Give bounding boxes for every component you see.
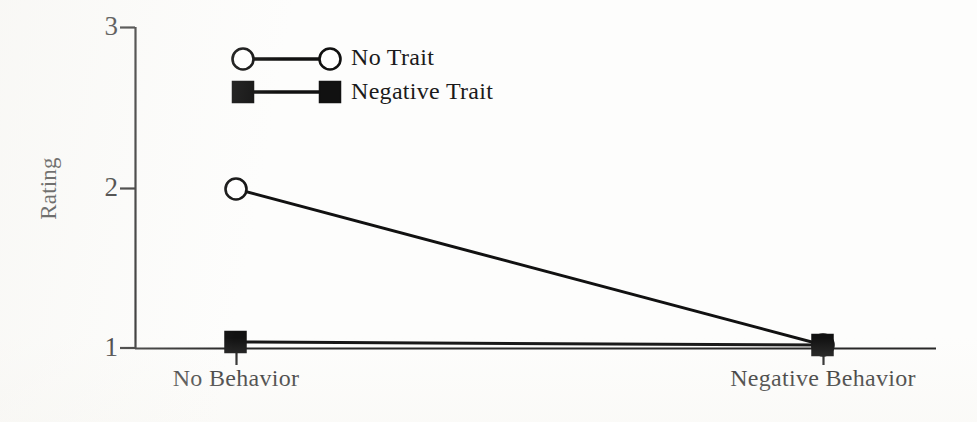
legend-marker-filled-square-right (320, 82, 341, 103)
legend-label-negative-trait: Negative Trait (351, 79, 493, 103)
data-point-negative-trait-negative-behavior (812, 335, 833, 356)
legend-marker-filled-square-left (233, 82, 254, 103)
y-tick-label-2: 2 (78, 174, 118, 201)
legend-marker-open-circle-left (233, 49, 254, 70)
series-line-negative-trait (236, 342, 823, 345)
y-tick-label-3: 3 (78, 13, 118, 40)
plot-canvas (0, 0, 977, 422)
x-axis-label-no-behavior: No Behavior (136, 366, 336, 390)
legend-label-no-trait: No Trait (351, 45, 434, 69)
series-line-no-trait (236, 189, 823, 345)
legend-marker-open-circle-right (320, 49, 341, 70)
y-tick-label-1: 1 (78, 334, 118, 361)
data-point-negative-trait-no-behavior (225, 332, 246, 353)
x-axis-label-negative-behavior: Negative Behavior (703, 366, 943, 390)
chart-figure: 3 2 1 Rating No Behavior Negative Behavi… (0, 0, 977, 422)
y-axis-title: Rating (37, 139, 60, 239)
data-point-no-trait-no-behavior (226, 179, 247, 200)
